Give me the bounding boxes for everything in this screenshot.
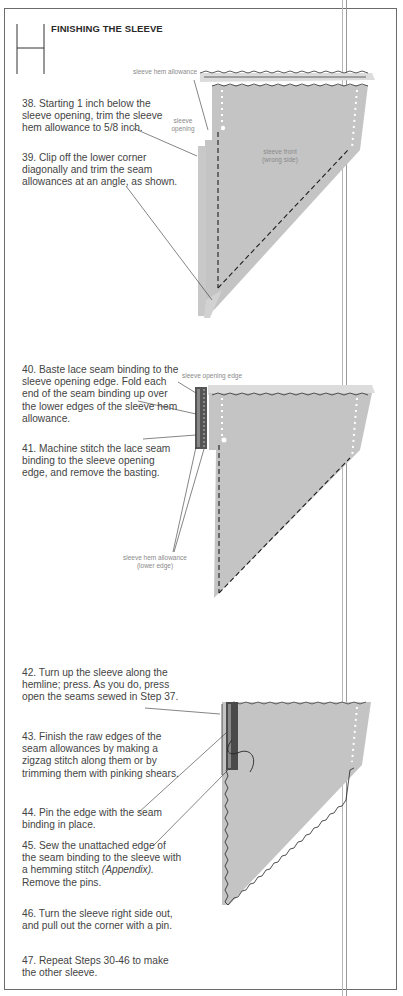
- step-40: 40. Baste lace seam binding to the sleev…: [22, 364, 182, 425]
- step-46: 46. Turn the sleeve right side out, and …: [22, 908, 182, 932]
- step-39: 39. Clip off the lower corner diagonally…: [22, 152, 182, 189]
- label-sleeve-hem-allowance-lower: sleeve hem allowance (lower edge): [110, 554, 200, 569]
- label-line: sleeve hem allowance: [110, 554, 200, 562]
- step-44: 44. Pin the edge with the seam binding i…: [22, 807, 182, 831]
- label-sleeve-hem-allowance: sleeve hem allowance: [122, 68, 197, 76]
- label-line: (lower edge): [110, 562, 200, 570]
- step-42: 42. Turn up the sleeve along the hemline…: [22, 667, 182, 704]
- step-text: Remove the pins.: [22, 877, 101, 888]
- label-sleeve-opening-edge: sleeve opening edge: [172, 372, 252, 380]
- appendix-reference: (Appendix).: [102, 864, 154, 875]
- step-38: 38. Starting 1 inch below the sleeve ope…: [22, 98, 182, 135]
- step-41: 41. Machine stitch the lace seam binding…: [22, 443, 182, 480]
- label-line: sleeve front: [250, 148, 310, 156]
- step-45: 45. Sew the unattached edge of the seam …: [22, 840, 182, 889]
- label-line: (wrong side): [250, 156, 310, 164]
- label-sleeve-front: sleeve front (wrong side): [250, 148, 310, 163]
- step-43: 43. Finish the raw edges of the seam all…: [22, 731, 182, 780]
- step-47: 47. Repeat Steps 30-46 to make the other…: [22, 955, 182, 979]
